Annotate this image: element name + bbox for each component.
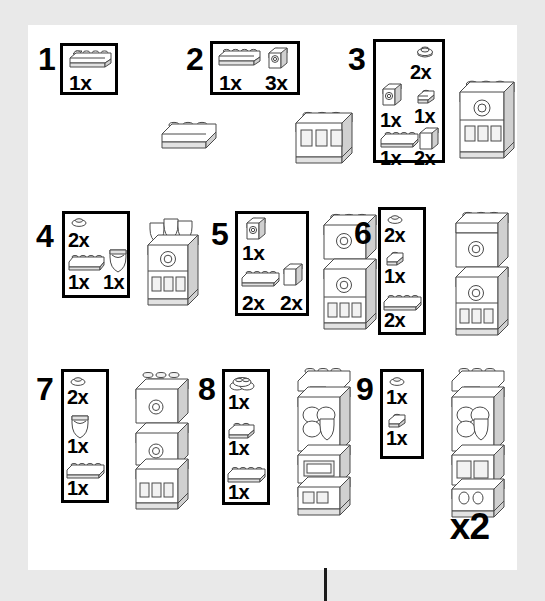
part-brick-1x2-icon: [280, 262, 308, 290]
step-9-parts-box: 1x 1x: [380, 369, 424, 459]
step-4-part-2-qty: 1x: [68, 272, 89, 292]
step-1-parts-box: 1x: [60, 43, 118, 95]
step-8-part-3-qty: 1x: [228, 482, 249, 502]
part-brick-1x1-window-icon: [265, 46, 293, 72]
part-plate-1x1-icon: [416, 88, 440, 106]
part-plate-1x4-icon: [240, 268, 282, 290]
step-8-number: 8: [198, 373, 216, 405]
step-6-number: 6: [354, 217, 372, 249]
step-7-part-1-qty: 2x: [67, 387, 88, 407]
step-3-part-4-qty: 1x: [380, 148, 401, 168]
step-4-number: 4: [36, 220, 54, 252]
step-2-parts-box: 1x 3x: [210, 41, 300, 95]
step-2-part-2-qty: 3x: [265, 72, 287, 93]
step-3-parts-box: 2x 1x: [373, 39, 445, 163]
step-7-part-3-qty: 1x: [67, 478, 88, 498]
step-7-number: 7: [36, 373, 54, 405]
step-4-parts-box: 2x 1x 1x: [62, 211, 130, 298]
instruction-page: 1 1x: [28, 25, 517, 570]
part-brick-1x1-window-icon: [243, 216, 271, 244]
step-9-part-2-qty: 1x: [386, 428, 407, 448]
part-plate-1x4-icon: [67, 252, 107, 272]
step-4-part-1-qty: 2x: [68, 230, 89, 250]
step-5-part-1-qty: 1x: [242, 242, 264, 263]
step-7-parts-box: 2x 1x 1x: [61, 369, 109, 503]
step-3-part-3-qty: 1x: [414, 106, 435, 126]
part-shield-icon: [106, 246, 130, 274]
step-6-model: [448, 203, 532, 353]
step-5-number: 5: [211, 218, 229, 250]
step-2-number: 2: [186, 43, 204, 75]
step-2-model: [290, 105, 376, 173]
step-5-part-3-qty: 2x: [280, 292, 302, 313]
part-round-plate-1x1-icon: [414, 45, 438, 61]
step-8-part-2-qty: 1x: [228, 438, 249, 458]
step-8-part-1-qty: 1x: [228, 392, 249, 412]
part-round-plate-1x1-icon: [69, 216, 91, 230]
step-5-part-2-qty: 2x: [242, 292, 264, 313]
step-3-part-5-qty: 2x: [414, 148, 435, 168]
step-9-number: 9: [356, 373, 374, 405]
step-3-model: [452, 70, 538, 170]
step-6-part-3-qty: 2x: [384, 310, 405, 330]
step-6-part-2-qty: 1x: [384, 266, 405, 286]
step-5-parts-box: 1x 2x: [235, 211, 309, 316]
step-4-part-3-qty: 1x: [103, 272, 124, 292]
step-4-model: [140, 207, 218, 317]
step-3-number: 3: [348, 43, 366, 75]
step-6-part-1-qty: 2x: [384, 225, 405, 245]
book-spine-line: [324, 568, 327, 601]
step-1-model: [158, 115, 236, 155]
part-plate-1x4-icon: [68, 49, 116, 71]
step-8-parts-box: 1x 1x: [222, 369, 270, 505]
step-3-part-2-qty: 1x: [380, 110, 401, 130]
step-6-parts-box: 2x 1x: [378, 207, 426, 335]
step-3-part-1-qty: 2x: [410, 62, 431, 82]
part-plate-1x4-icon: [217, 47, 263, 69]
part-brick-1x1-window-icon: [379, 82, 407, 110]
step-2-part-1-qty: 1x: [219, 72, 241, 93]
step-1-number: 1: [38, 43, 56, 75]
repeat-count-label: x2: [450, 506, 489, 548]
step-7-part-2-qty: 1x: [67, 436, 88, 456]
step-9-part-1-qty: 1x: [386, 387, 407, 407]
step-1-part-1-qty: 1x: [69, 72, 91, 93]
